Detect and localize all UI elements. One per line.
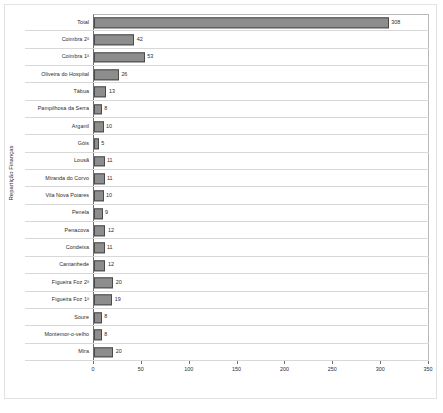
category-label: Condeixa xyxy=(0,245,89,250)
bar xyxy=(94,329,102,340)
bar-group: 308 xyxy=(94,14,400,31)
category-label: Tábua xyxy=(0,89,89,94)
bar-row: Pampilhosa da Serra8 xyxy=(0,101,429,118)
bar-rows: Total308Coimbra 2ª42Coimbra 1ª53Oliveira… xyxy=(0,14,429,361)
bar-group: 11 xyxy=(94,170,113,187)
bar-group: 20 xyxy=(94,274,122,291)
x-tick xyxy=(428,361,429,364)
x-tick xyxy=(380,361,381,364)
bar-value-label: 8 xyxy=(104,315,107,320)
bar-row: Góis5 xyxy=(0,135,429,152)
bar-value-label: 11 xyxy=(107,159,113,164)
bar-row: Coimbra 2ª42 xyxy=(0,31,429,48)
bar-group: 12 xyxy=(94,257,114,274)
x-tick xyxy=(332,361,333,364)
bar xyxy=(94,295,112,306)
bar xyxy=(94,225,105,236)
bar-row: Montemor-o-velho8 xyxy=(0,326,429,343)
bar-group: 13 xyxy=(94,83,115,100)
bar-group: 8 xyxy=(94,101,107,118)
bar-row: Figueira Foz 1ª19 xyxy=(0,292,429,309)
x-tick xyxy=(284,361,285,364)
bar-value-label: 8 xyxy=(104,332,107,337)
category-label: Coimbra 1ª xyxy=(0,55,89,60)
bar-group: 10 xyxy=(94,118,112,135)
bar-row: Penela9 xyxy=(0,205,429,222)
bar-row: Mira20 xyxy=(0,344,429,361)
x-tick xyxy=(93,361,94,364)
category-label: Figueira Foz 2ª xyxy=(0,280,89,285)
x-tick-label: 0 xyxy=(92,366,95,372)
bar xyxy=(94,156,105,167)
category-label: Total xyxy=(0,20,89,25)
bar-group: 11 xyxy=(94,239,113,256)
bar-value-label: 12 xyxy=(108,263,114,268)
bar-value-label: 13 xyxy=(109,89,115,94)
bar-group: 20 xyxy=(94,344,122,361)
bar xyxy=(94,243,105,254)
bar-value-label: 10 xyxy=(106,124,112,129)
bar-group: 12 xyxy=(94,222,114,239)
bar xyxy=(94,87,106,98)
bar-row: Oliveira do Hospital26 xyxy=(0,66,429,83)
bar-row: Soure8 xyxy=(0,309,429,326)
x-tick-label: 300 xyxy=(376,366,385,372)
bar-group: 9 xyxy=(94,205,108,222)
bar-value-label: 5 xyxy=(101,141,104,146)
bar xyxy=(94,347,113,358)
x-tick-label: 50 xyxy=(138,366,144,372)
category-label: Figueira Foz 1ª xyxy=(0,297,89,302)
bar-group: 42 xyxy=(94,31,143,48)
category-label: Cantanhede xyxy=(0,263,89,268)
bar-group: 8 xyxy=(94,326,107,343)
bar-group: 26 xyxy=(94,66,127,83)
bar-group: 8 xyxy=(94,309,107,326)
bar xyxy=(94,191,104,202)
bar xyxy=(94,208,103,219)
bar-group: 5 xyxy=(94,135,104,152)
category-label: Soure xyxy=(0,315,89,320)
bar xyxy=(94,173,105,184)
category-label: Pampilhosa da Serra xyxy=(0,107,89,112)
y-axis-title: Repartição Finanças xyxy=(8,118,14,228)
bar-row: Tábua13 xyxy=(0,83,429,100)
category-label: Penacova xyxy=(0,228,89,233)
bar-row: Miranda do Corvo11 xyxy=(0,170,429,187)
bar-row: Coimbra 1ª53 xyxy=(0,49,429,66)
bar xyxy=(94,121,104,132)
x-tick-label: 350 xyxy=(424,366,433,372)
bar xyxy=(94,277,113,288)
bar-group: 10 xyxy=(94,187,112,204)
bar-value-label: 53 xyxy=(147,55,153,60)
category-label: Coimbra 2ª xyxy=(0,37,89,42)
bar-value-label: 9 xyxy=(105,211,108,216)
bar-group: 19 xyxy=(94,292,121,309)
x-tick-label: 250 xyxy=(328,366,337,372)
bar-row: Condeixa11 xyxy=(0,239,429,256)
bar xyxy=(94,17,389,28)
bar-group: 53 xyxy=(94,49,153,66)
bar-value-label: 42 xyxy=(137,37,143,42)
bar-row: Vila Nova Poiares10 xyxy=(0,187,429,204)
bar-row: Figueira Foz 2ª20 xyxy=(0,274,429,291)
x-tick-label: 150 xyxy=(232,366,241,372)
category-label: Montemor-o-velho xyxy=(0,332,89,337)
bar xyxy=(94,52,145,63)
bar-value-label: 11 xyxy=(107,245,113,250)
bar-value-label: 19 xyxy=(115,297,121,302)
bar-row: Lousã11 xyxy=(0,153,429,170)
x-tick xyxy=(141,361,142,364)
bar-value-label: 12 xyxy=(108,228,114,233)
bar-value-label: 308 xyxy=(391,20,400,25)
category-label: Oliveira do Hospital xyxy=(0,72,89,77)
bar-row: Penacova12 xyxy=(0,222,429,239)
x-axis: 050100150200250300350 xyxy=(93,361,429,381)
bar-value-label: 8 xyxy=(104,107,107,112)
x-tick-label: 200 xyxy=(280,366,289,372)
bar xyxy=(94,35,134,46)
bar xyxy=(94,104,102,115)
bar-value-label: 20 xyxy=(116,350,122,355)
x-tick-label: 100 xyxy=(184,366,193,372)
x-tick xyxy=(237,361,238,364)
bar-group: 11 xyxy=(94,153,113,170)
